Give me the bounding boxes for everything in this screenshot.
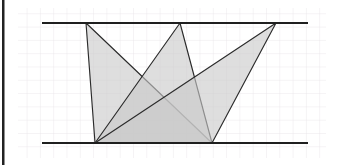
left-margin-bar bbox=[2, 0, 5, 165]
figure-container: Three triangles with a common base betwe… bbox=[0, 0, 344, 165]
geometry-figure bbox=[0, 0, 344, 165]
